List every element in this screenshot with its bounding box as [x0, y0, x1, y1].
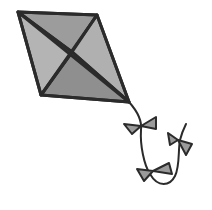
bow-3 — [137, 163, 172, 181]
tail-bows — [124, 117, 192, 181]
kite-illustration: kite — [0, 0, 212, 210]
kite-body — [18, 12, 129, 102]
kite-svg — [0, 0, 212, 210]
